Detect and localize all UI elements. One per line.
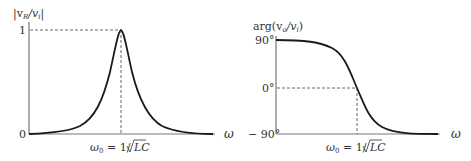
- magnitude-tick-0: 0: [19, 128, 26, 141]
- phase-plot: arg(vo/vi) 90° 0° − 90° ω ω0 = 1/ LC: [248, 20, 461, 155]
- phase-tick-0: 0°: [262, 82, 275, 95]
- magnitude-x-label: ω: [224, 127, 234, 141]
- phase-w0-radicand: LC: [369, 141, 386, 154]
- magnitude-w0-label: ω0 = 1/: [90, 141, 131, 155]
- chart-canvas: |vR/vi| 1 0 ω ω0 = 1/ LC arg(vo/vi) 90° …: [0, 0, 471, 161]
- phase-y-label: arg(vo/vi): [253, 20, 303, 34]
- magnitude-w0-radicand: LC: [133, 141, 150, 154]
- phase-tick-minus-90: − 90°: [248, 128, 280, 141]
- phase-tick-90: 90°: [255, 34, 275, 47]
- phase-x-label: ω: [451, 127, 461, 141]
- magnitude-y-label: |vR/vi|: [13, 7, 44, 21]
- magnitude-plot: |vR/vi| 1 0 ω ω0 = 1/ LC: [13, 7, 234, 155]
- figure: |vR/vi| 1 0 ω ω0 = 1/ LC arg(vo/vi) 90° …: [0, 0, 471, 161]
- magnitude-tick-1: 1: [19, 24, 26, 37]
- phase-w0-label: ω0 = 1/: [326, 141, 367, 155]
